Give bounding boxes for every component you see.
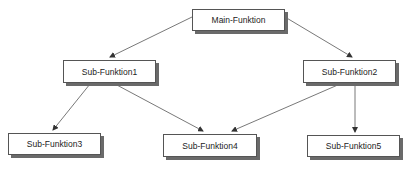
node-main-funktion: Main-Funktion <box>192 9 285 31</box>
node-label: Sub-Funktion3 <box>27 139 82 149</box>
node-sub-funktion1: Sub-Funktion1 <box>63 60 156 83</box>
function-hierarchy-diagram: Main-Funktion Sub-Funktion1 Sub-Funktion… <box>0 0 411 170</box>
node-sub-funktion4: Sub-Funktion4 <box>163 134 257 157</box>
arrow-sub2-to-sub4 <box>232 84 340 131</box>
arrow-main-to-sub1 <box>110 17 192 57</box>
node-label: Sub-Funktion4 <box>182 141 237 151</box>
arrow-sub1-to-sub4 <box>115 84 203 131</box>
node-sub-funktion5: Sub-Funktion5 <box>307 135 400 157</box>
node-label: Sub-Funktion5 <box>326 141 381 151</box>
arrow-main-to-sub2 <box>285 17 352 57</box>
node-label: Sub-Funktion2 <box>322 67 377 77</box>
node-sub-funktion2: Sub-Funktion2 <box>303 60 396 83</box>
node-label: Main-Funktion <box>212 15 266 25</box>
node-sub-funktion3: Sub-Funktion3 <box>8 133 101 155</box>
arrow-sub1-to-sub3 <box>53 84 90 130</box>
node-label: Sub-Funktion1 <box>82 67 137 77</box>
